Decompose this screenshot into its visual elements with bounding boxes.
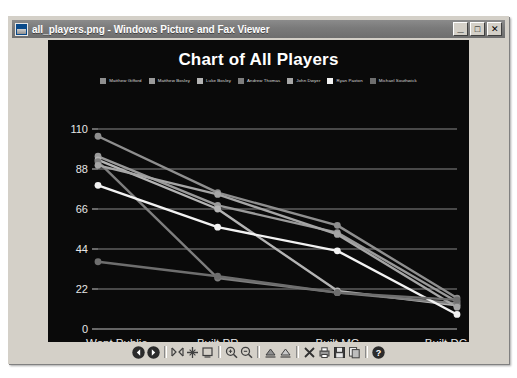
zoom-out-icon	[239, 345, 254, 360]
toolbar-separator	[218, 346, 221, 358]
print-button[interactable]	[317, 345, 332, 360]
series-marker	[334, 247, 341, 254]
series-lines	[98, 136, 457, 314]
y-axis-tick-labels: 022446688110	[70, 123, 88, 335]
toolbar-separator	[296, 346, 299, 358]
series-marker	[334, 289, 341, 296]
series-marker	[454, 297, 461, 304]
toolbar-separator	[365, 346, 368, 358]
series-marker	[214, 224, 221, 231]
line-chart-svg: 022446688110 Went PublicBuilt PRBuilt MC…	[48, 40, 469, 343]
picture-viewer-icon	[15, 23, 28, 36]
help-icon: ?	[371, 345, 386, 360]
window-controls: _ □ ✕	[453, 22, 503, 36]
svg-text:?: ?	[376, 348, 382, 358]
toolbar-separator	[257, 346, 260, 358]
series-marker	[95, 162, 102, 169]
delete-button[interactable]	[302, 345, 317, 360]
close-button[interactable]: ✕	[487, 22, 502, 36]
copy-icon	[347, 345, 362, 360]
save-disk-icon	[332, 345, 347, 360]
y-axis-tick-label: 44	[76, 243, 88, 255]
desktop-background: all_players.png - Windows Picture and Fa…	[0, 0, 517, 378]
previous-icon	[131, 345, 146, 360]
slideshow-button[interactable]	[200, 345, 215, 360]
series-marker	[334, 231, 341, 238]
rotate-cw-icon	[263, 345, 278, 360]
toolbar-separator	[164, 346, 167, 358]
series-marker	[334, 222, 341, 229]
zoom-in-icon	[224, 345, 239, 360]
y-axis-tick-label: 0	[82, 323, 88, 335]
series-marker	[95, 182, 102, 189]
best-fit-button[interactable]	[170, 345, 185, 360]
minimize-button[interactable]: _	[453, 22, 468, 36]
slideshow-icon	[200, 345, 215, 360]
minimize-icon: _	[454, 23, 467, 35]
previous-image-button[interactable]	[131, 345, 146, 360]
zoom-in-button[interactable]	[224, 345, 239, 360]
best-fit-icon	[170, 345, 185, 360]
series-marker	[214, 273, 221, 280]
series-marker	[95, 258, 102, 265]
series-marker	[214, 191, 221, 198]
rotate-counterclockwise-button[interactable]	[278, 345, 293, 360]
title-bar[interactable]: all_players.png - Windows Picture and Fa…	[12, 20, 505, 38]
next-image-button[interactable]	[146, 345, 161, 360]
series-line	[98, 262, 457, 300]
window-title: all_players.png - Windows Picture and Fa…	[32, 24, 270, 35]
copy-to-button[interactable]	[347, 345, 362, 360]
y-axis-tick-label: 22	[76, 283, 88, 295]
help-button[interactable]: ?	[371, 345, 386, 360]
maximize-button[interactable]: □	[470, 22, 485, 36]
series-marker	[454, 311, 461, 318]
actual-size-button[interactable]	[185, 345, 200, 360]
series-marker	[95, 133, 102, 140]
series-marker	[214, 206, 221, 213]
save-as-button[interactable]	[332, 345, 347, 360]
delete-x-icon	[302, 345, 317, 360]
picture-viewer-window: all_players.png - Windows Picture and Fa…	[8, 16, 509, 364]
next-icon	[146, 345, 161, 360]
viewer-client-area: Chart of All Players Matthew GiffordMatt…	[12, 38, 505, 362]
rotate-clockwise-button[interactable]	[263, 345, 278, 360]
maximize-icon: □	[471, 23, 484, 35]
viewer-toolbar: ?	[12, 342, 505, 362]
series-marker	[454, 304, 461, 311]
close-icon: ✕	[488, 23, 501, 35]
zoom-out-button[interactable]	[239, 345, 254, 360]
print-icon	[317, 345, 332, 360]
image-canvas[interactable]: Chart of All Players Matthew GiffordMatt…	[48, 40, 469, 343]
actual-size-icon	[185, 345, 200, 360]
y-axis-tick-label: 88	[76, 163, 88, 175]
y-axis-tick-label: 66	[76, 203, 88, 215]
chart-plot-area: 022446688110 Went PublicBuilt PRBuilt MC…	[48, 40, 469, 343]
rotate-ccw-icon	[278, 345, 293, 360]
y-axis-tick-label: 110	[70, 123, 88, 135]
